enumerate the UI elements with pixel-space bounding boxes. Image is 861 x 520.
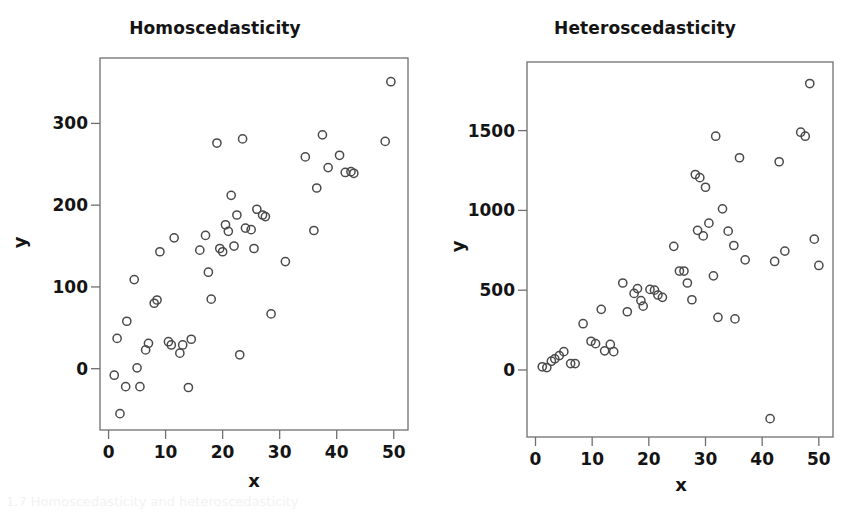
data-point xyxy=(579,320,587,328)
panel-heteroscedasticity: Heteroscedasticity 010203040500500100015… xyxy=(430,0,860,470)
data-point xyxy=(213,139,221,147)
data-point xyxy=(730,241,738,249)
data-point xyxy=(261,213,269,221)
plot-frame xyxy=(527,62,833,437)
data-point xyxy=(207,295,215,303)
data-point xyxy=(815,261,823,269)
data-point xyxy=(387,78,395,86)
scatter-plot-left: 010203040500100200300 xyxy=(0,0,430,470)
data-point xyxy=(771,257,779,265)
x-axis-title-right: x xyxy=(527,474,835,495)
data-point xyxy=(130,275,138,283)
data-point xyxy=(241,224,249,232)
figure-homoscedasticity-heteroscedasticity: Homoscedasticity 010203040500100200300 y… xyxy=(0,0,861,520)
data-point xyxy=(187,335,195,343)
data-point-group xyxy=(110,78,395,418)
data-point xyxy=(136,383,144,391)
data-point xyxy=(250,244,258,252)
y-tick-label: 500 xyxy=(480,280,516,300)
data-point xyxy=(775,158,783,166)
y-tick-label: 0 xyxy=(503,360,515,380)
x-axis-title-left: x xyxy=(100,470,408,491)
data-point xyxy=(110,371,118,379)
caption-text: 1.7 Homoscedasticity and heteroscedastic… xyxy=(6,494,299,509)
x-tick-label: 10 xyxy=(580,449,604,469)
y-tick-label: 0 xyxy=(76,359,88,379)
y-tick-label: 100 xyxy=(53,277,89,297)
data-point xyxy=(233,211,241,219)
data-point xyxy=(724,227,732,235)
data-point xyxy=(116,410,124,418)
x-tick-label: 0 xyxy=(103,442,115,462)
data-point xyxy=(712,132,720,140)
data-point xyxy=(318,131,326,139)
data-point xyxy=(683,279,691,287)
data-point xyxy=(176,349,184,357)
data-point xyxy=(714,313,722,321)
scatter-plot-right: 01020304050050010001500 xyxy=(430,0,860,470)
data-point xyxy=(324,163,332,171)
y-tick-label: 300 xyxy=(53,113,89,133)
data-point xyxy=(731,315,739,323)
data-point xyxy=(766,415,774,423)
x-tick-label: 50 xyxy=(382,442,406,462)
data-point xyxy=(156,248,164,256)
data-point xyxy=(227,191,235,199)
y-tick-label: 1500 xyxy=(468,121,515,141)
data-point xyxy=(133,364,141,372)
data-point xyxy=(247,226,255,234)
figure-caption-cropped: 1.7 Homoscedasticity and heteroscedastic… xyxy=(0,494,861,520)
data-point xyxy=(113,334,121,342)
data-point xyxy=(281,257,289,265)
y-axis-title-left: y xyxy=(9,237,30,249)
data-point xyxy=(610,348,618,356)
data-point xyxy=(179,341,187,349)
data-point xyxy=(267,310,275,318)
data-point xyxy=(301,153,309,161)
data-point xyxy=(705,219,713,227)
x-tick-label: 20 xyxy=(637,449,661,469)
data-point xyxy=(310,226,318,234)
x-tick-label: 40 xyxy=(325,442,349,462)
y-tick-label: 200 xyxy=(53,195,89,215)
y-axis-title-right: y xyxy=(447,241,468,253)
panel-homoscedasticity: Homoscedasticity 010203040500100200300 y… xyxy=(0,0,430,470)
data-point xyxy=(688,296,696,304)
data-point xyxy=(735,154,743,162)
x-tick-label: 30 xyxy=(268,442,292,462)
data-point xyxy=(238,135,246,143)
data-point xyxy=(230,242,238,250)
data-point xyxy=(313,184,321,192)
data-point xyxy=(381,137,389,145)
data-point xyxy=(619,279,627,287)
x-tick-label: 0 xyxy=(530,449,542,469)
data-point xyxy=(335,151,343,159)
data-point xyxy=(806,79,814,87)
data-point xyxy=(204,268,212,276)
data-point xyxy=(122,383,130,391)
data-point xyxy=(670,242,678,250)
data-point xyxy=(781,247,789,255)
data-point xyxy=(184,383,192,391)
data-point xyxy=(741,256,749,264)
data-point xyxy=(236,351,244,359)
data-point xyxy=(597,305,605,313)
x-tick-label: 50 xyxy=(807,449,831,469)
data-point xyxy=(170,234,178,242)
x-tick-label: 40 xyxy=(750,449,774,469)
x-tick-label: 10 xyxy=(154,442,178,462)
data-point xyxy=(718,205,726,213)
x-tick-label: 20 xyxy=(211,442,235,462)
data-point xyxy=(201,231,209,239)
data-point xyxy=(350,169,358,177)
data-point xyxy=(123,317,131,325)
data-point xyxy=(196,246,204,254)
data-point-group xyxy=(538,79,823,422)
data-point xyxy=(701,183,709,191)
x-tick-label: 30 xyxy=(694,449,718,469)
data-point xyxy=(810,235,818,243)
data-point xyxy=(709,272,717,280)
data-point xyxy=(699,232,707,240)
data-point xyxy=(623,308,631,316)
y-tick-label: 1000 xyxy=(468,200,515,220)
